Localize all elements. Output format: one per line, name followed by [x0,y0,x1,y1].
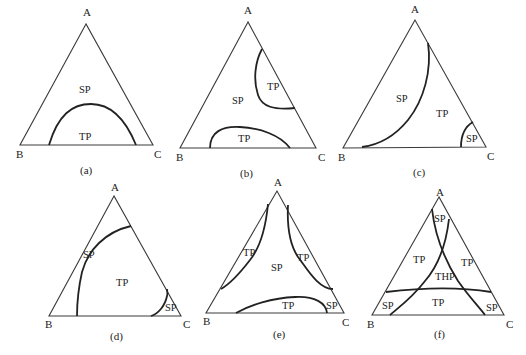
vertex-label-a: A [436,186,444,198]
region-label: SP [83,249,95,260]
panel-a: A B C SP TP (a) [16,6,161,177]
panel-d: A B C SP TP SP (d) [45,181,190,343]
triangle-outline [343,20,486,148]
panel-caption: (a) [80,164,93,177]
panel-c: A B C SP TP SP (c) [338,3,494,179]
triangle-outline [206,191,344,313]
phase-boundary [77,226,131,316]
vertex-label-c: C [487,150,494,162]
panel-caption: (f) [434,328,445,341]
vertex-label-b: B [338,151,345,163]
vertex-label-a: A [274,176,282,188]
vertex-label-b: B [203,315,210,327]
ternary-diagram-figure: A B C SP TP (a) A B C SP TP TP (b) A B C… [0,0,526,355]
vertex-label-b: B [176,151,183,163]
vertex-label-c: C [342,316,349,328]
region-label: TP [79,131,91,142]
region-label: THP [435,271,455,282]
vertex-label-c: C [506,318,513,330]
panel-f: A B C SP TP THP TP SP TP SP (f) [367,186,513,341]
region-label: SP [382,300,394,311]
vertex-label-b: B [45,318,52,330]
region-label: SP [396,93,408,104]
region-label: SP [271,262,283,273]
region-label: SP [326,300,338,311]
vertex-label-a: A [111,181,119,193]
vertex-label-a: A [244,4,252,16]
triangle-outline [49,196,181,316]
region-label: SP [165,302,177,313]
region-label: TP [282,300,294,311]
phase-boundary [255,49,295,109]
region-label: SP [486,302,498,313]
region-label: TP [297,252,309,263]
region-label: TP [436,108,448,119]
region-label: SP [232,95,244,106]
panel-caption: (d) [110,330,123,343]
panel-b: A B C SP TP TP (b) [176,4,325,180]
panel-caption: (e) [273,328,286,341]
phase-boundary [386,289,491,292]
triangle-outline [180,22,316,148]
region-label: TP [432,297,444,308]
panel-caption: (b) [240,167,253,180]
vertex-label-a: A [83,6,91,18]
phase-boundary [288,205,333,289]
region-label: SP [466,133,478,144]
region-label: SP [79,84,91,95]
panel-caption: (c) [413,166,426,179]
region-label: TP [461,257,473,268]
region-label: SP [434,213,446,224]
vertex-label-b: B [16,148,23,160]
panel-e: A B C TP SP TP TP SP (e) [203,176,349,341]
vertex-label-c: C [154,148,161,160]
region-label: TP [238,133,250,144]
vertex-label-c: C [183,318,190,330]
phase-boundary [49,104,136,145]
region-label: TP [413,254,425,265]
region-label: TP [267,81,279,92]
region-label: TP [243,247,255,258]
vertex-label-b: B [367,318,374,330]
region-label: TP [116,277,128,288]
vertex-label-a: A [411,3,419,15]
vertex-label-c: C [318,151,325,163]
